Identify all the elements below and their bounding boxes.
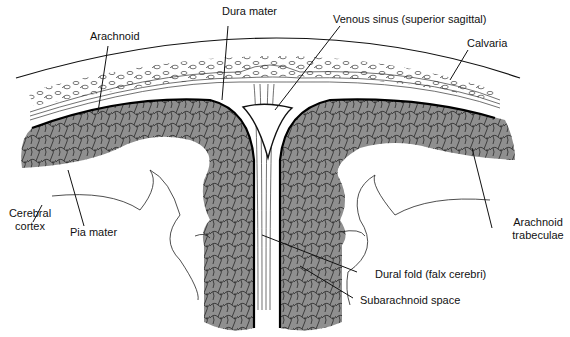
left-hemisphere-cortex bbox=[21, 99, 254, 330]
label-dura-mater: Dura mater bbox=[222, 5, 277, 18]
label-arachnoid-trabeculae: Arachnoid trabeculae bbox=[508, 216, 568, 242]
label-venous-sinus: Venous sinus (superior sagittal) bbox=[333, 13, 486, 26]
meninges-diagram: Dura mater Venous sinus (superior sagitt… bbox=[0, 0, 570, 337]
label-calvaria: Calvaria bbox=[467, 37, 507, 50]
label-cerebral-cortex: Cerebral cortex bbox=[8, 207, 52, 233]
diagram-drawing bbox=[0, 0, 570, 337]
sulci-outlines bbox=[52, 170, 490, 305]
label-subarachnoid-space: Subarachnoid space bbox=[360, 294, 460, 307]
label-arachnoid: Arachnoid bbox=[90, 30, 140, 43]
label-dural-fold: Dural fold (falx cerebri) bbox=[375, 268, 486, 281]
label-pia-mater: Pia mater bbox=[70, 226, 117, 239]
